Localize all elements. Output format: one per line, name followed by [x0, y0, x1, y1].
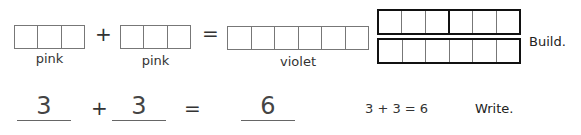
cell	[497, 11, 519, 33]
sum-cell-strip	[227, 26, 369, 50]
cell	[379, 11, 402, 33]
cell	[168, 26, 190, 48]
cell	[426, 11, 450, 33]
cell	[38, 26, 61, 48]
equals-sign: =	[202, 21, 219, 45]
addend1-answer: 3	[17, 92, 71, 121]
addend1-color-label: pink	[14, 51, 85, 66]
model-bottom-bar	[377, 38, 521, 64]
cell	[62, 26, 84, 48]
equals-sign: =	[184, 96, 201, 120]
cell	[228, 27, 252, 49]
plus-sign: +	[95, 22, 112, 46]
cell	[450, 40, 474, 62]
write-instruction: Write.	[475, 101, 513, 116]
cell	[473, 11, 496, 33]
cell	[275, 27, 299, 49]
cell	[252, 27, 276, 49]
addend2-color-label: pink	[120, 53, 191, 68]
cell	[403, 40, 427, 62]
cell	[299, 27, 323, 49]
cell	[144, 26, 167, 48]
cell	[121, 26, 144, 48]
cell	[322, 27, 346, 49]
build-instruction: Build.	[529, 34, 566, 49]
cell	[379, 40, 403, 62]
addend2-answer: 3	[112, 92, 166, 121]
sum-answer: 6	[241, 92, 295, 121]
model-top-bar	[377, 9, 521, 35]
cell	[402, 11, 425, 33]
sum-color-label: violet	[227, 54, 369, 69]
equation-text: 3 + 3 = 6	[365, 101, 428, 116]
cell	[426, 40, 450, 62]
cell	[497, 40, 520, 62]
addend1-cell-strip	[14, 25, 85, 49]
plus-sign: +	[91, 96, 108, 120]
cell	[473, 40, 497, 62]
cell	[450, 11, 473, 33]
cell	[346, 27, 369, 49]
cell	[15, 26, 38, 48]
addend2-cell-strip	[120, 25, 191, 49]
